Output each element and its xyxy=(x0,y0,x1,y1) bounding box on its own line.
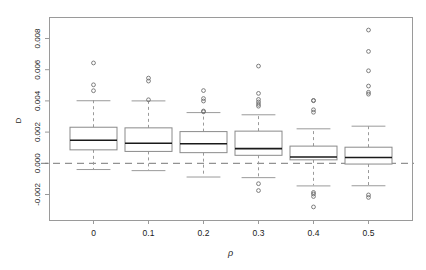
outlier-point xyxy=(257,189,261,193)
y-axis-tick-label: 0.002 xyxy=(33,122,42,143)
outlier-point xyxy=(367,50,371,54)
outlier-point xyxy=(367,28,371,32)
x-axis-tick-label: 0.5 xyxy=(363,228,375,238)
box-iqr xyxy=(180,132,227,153)
box-iqr xyxy=(345,147,392,164)
x-axis-tick-label: 0.3 xyxy=(253,228,265,238)
outlier-point xyxy=(367,84,371,88)
outlier-point xyxy=(257,91,261,95)
x-axis-tick-label: 0.1 xyxy=(143,228,155,238)
y-axis-title: D xyxy=(14,109,23,133)
outlier-point xyxy=(202,99,206,103)
y-axis-tick-label: 0.004 xyxy=(33,90,42,111)
outlier-point xyxy=(257,182,261,186)
box-iqr xyxy=(125,128,172,152)
outlier-point xyxy=(92,83,96,87)
outlier-point xyxy=(312,195,316,199)
outlier-point xyxy=(92,61,96,65)
boxplot-figure: -0.0020.0000.0020.0040.0060.00800.10.20.… xyxy=(0,0,426,270)
x-axis-title: ρ xyxy=(211,248,251,258)
outlier-point xyxy=(257,64,261,68)
outlier-point xyxy=(312,205,316,209)
outlier-point xyxy=(92,89,96,93)
outlier-point xyxy=(367,196,371,200)
plot-frame xyxy=(50,18,413,221)
y-axis-tick-label: 0.008 xyxy=(33,28,42,49)
x-axis-tick-label: 0.2 xyxy=(198,228,210,238)
x-axis-tick-label: 0 xyxy=(91,228,96,238)
outlier-point xyxy=(312,110,316,114)
outlier-point xyxy=(202,89,206,93)
y-axis-tick-label: 0.000 xyxy=(33,153,42,174)
outlier-point xyxy=(367,69,371,73)
chart-canvas: -0.0020.0000.0020.0040.0060.00800.10.20.… xyxy=(0,0,426,270)
y-axis-tick-label: -0.002 xyxy=(33,183,42,206)
box-iqr xyxy=(70,127,117,150)
box-iqr xyxy=(235,131,282,155)
y-axis-tick-label: 0.006 xyxy=(33,59,42,80)
x-axis-tick-label: 0.4 xyxy=(308,228,320,238)
